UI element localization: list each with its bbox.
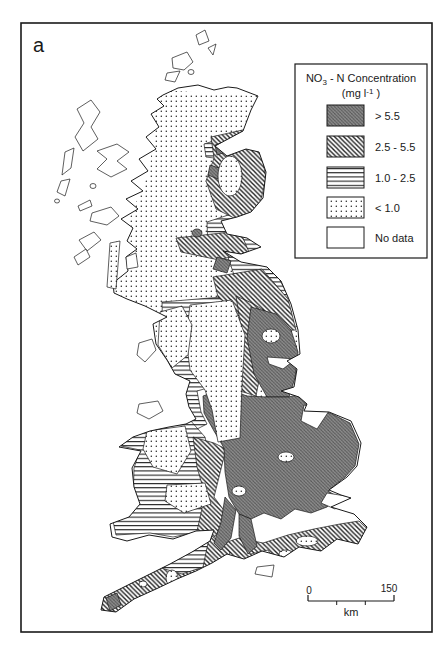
- scale-start-label: 0: [306, 585, 312, 596]
- legend-swatch-dotted-icon: [327, 197, 364, 218]
- figure-page: a NO3 - N Concentration (mg l-1 ) > 5.5 …: [0, 0, 444, 651]
- map-region-aberdeenshire-core: [218, 156, 242, 196]
- map-region-midlands-oval-2: [278, 452, 294, 462]
- legend-box: NO3 - N Concentration (mg l-1 ) > 5.5 2.…: [295, 64, 427, 258]
- legend-label: < 1.0: [375, 202, 400, 214]
- map-region-bodmin-oval: [139, 581, 147, 587]
- scale-end-label: 150: [381, 583, 398, 594]
- legend-swatch-horizontal-lines-icon: [327, 167, 364, 188]
- map-region-rum: [90, 184, 96, 189]
- panel-label: a: [33, 34, 45, 56]
- map-region-sussex-oval: [296, 536, 318, 546]
- legend-swatch-diagonal-hatch-icon: [327, 136, 364, 157]
- map-region-durham-oval: [262, 329, 280, 343]
- map-region-midlands-oval-1: [232, 486, 246, 496]
- map-region-orkney-3: [188, 70, 194, 75]
- scale-unit-label: km: [344, 606, 359, 618]
- legend-label: No data: [375, 232, 414, 244]
- map-region-barra: [55, 199, 60, 203]
- map-svg: a NO3 - N Concentration (mg l-1 ) > 5.5 …: [0, 0, 444, 651]
- map-region-clyde-patch: [192, 229, 202, 237]
- legend-label: 1.0 - 2.5: [375, 172, 415, 184]
- legend-swatch-dark-icon: [327, 105, 364, 126]
- legend-swatch-blank-icon: [327, 227, 364, 248]
- legend-unit: (mg l-1 ): [342, 87, 380, 99]
- legend-label: > 5.5: [375, 110, 400, 122]
- legend-label: 2.5 - 5.5: [375, 141, 415, 153]
